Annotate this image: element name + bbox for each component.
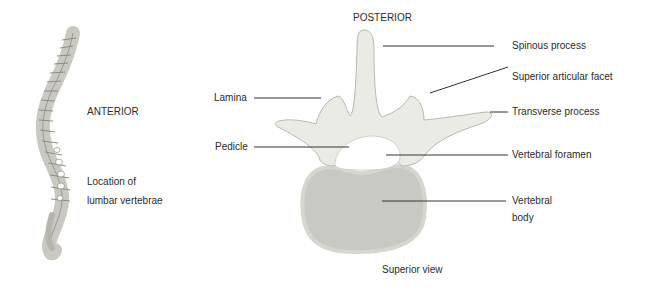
label-vertebral-body-line2: body <box>512 212 534 224</box>
label-pedicle: Pedicle <box>215 141 248 153</box>
label-superior-articular-facet: Superior articular facet <box>512 71 613 83</box>
vertebra-illustration <box>275 30 491 252</box>
label-vertebral-body-line1: Vertebral <box>512 195 552 207</box>
label-lamina: Lamina <box>214 92 247 104</box>
orientation-posterior-label: POSTERIOR <box>353 12 412 24</box>
spine-caption-line1: Location of <box>87 176 136 188</box>
label-vertebral-foramen: Vertebral foramen <box>512 149 592 161</box>
spine-illustration <box>39 33 76 253</box>
label-spinous-process: Spinous process <box>512 40 586 52</box>
orientation-anterior-label: ANTERIOR <box>87 106 139 118</box>
spine-caption-line2: lumbar vertebrae <box>87 195 163 207</box>
view-caption: Superior view <box>382 264 443 276</box>
label-transverse-process: Transverse process <box>512 106 599 118</box>
